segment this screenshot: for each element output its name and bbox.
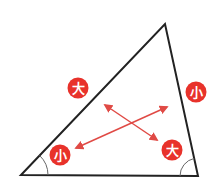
arrow-small-angle-to-small-side — [76, 107, 167, 148]
badge-side-left-large: 大 — [68, 78, 89, 99]
badge-angle-left-small: 小 — [50, 145, 71, 166]
badge-label: 小 — [54, 148, 67, 163]
badge-angle-right-large: 大 — [162, 140, 183, 161]
badge-label: 大 — [72, 81, 85, 96]
badge-label: 小 — [190, 85, 203, 100]
angle-arc-bottom-left — [40, 156, 48, 176]
angle-arc-bottom-right — [180, 158, 194, 176]
triangle-diagram: 大 小 小 大 — [0, 0, 224, 191]
badge-side-right-small: 小 — [186, 82, 207, 103]
badge-label: 大 — [166, 143, 179, 158]
